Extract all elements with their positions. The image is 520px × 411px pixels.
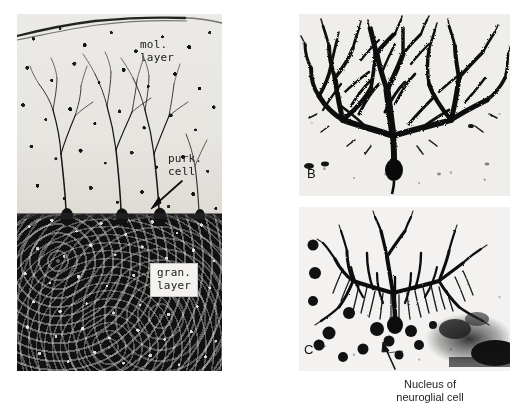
- purkinje-soma-panel-b: [385, 159, 403, 181]
- panel-b-dendritic-arbor: B: [299, 14, 510, 196]
- caption-line-2: neuroglial cell: [355, 391, 505, 404]
- panel-a-neuron-tracing: [17, 14, 222, 371]
- dark-smudge-region: [425, 312, 510, 367]
- purkinje-layer-band: [17, 213, 222, 219]
- purkinje-soma-panel-c: [387, 316, 403, 334]
- purkinje-cell-3: [121, 56, 188, 210]
- pial-surface-line: [17, 18, 222, 40]
- caption-neuroglial-nucleus: Nucleus of neuroglial cell: [355, 378, 505, 404]
- purkinje-cell-1: [30, 58, 93, 210]
- figure-plate: mol. layer purk. cell gran. layer: [0, 0, 520, 411]
- label-gran-layer: gran. layer: [150, 263, 198, 297]
- panel-letter-c: C: [304, 342, 313, 357]
- purkinje-pointer-arrow: [151, 181, 182, 209]
- panel-letter-b: B: [307, 166, 316, 181]
- purkinje-axon-panel-b: [392, 181, 394, 194]
- panel-a-cerebellar-section: mol. layer purk. cell gran. layer: [17, 14, 222, 371]
- panel-c-neuron-with-glia: C: [299, 207, 510, 371]
- panel-c-purkinje-drawing: [299, 207, 510, 371]
- caption-line-1: Nucleus of: [355, 378, 505, 391]
- label-mol-layer: mol. layer: [137, 38, 177, 65]
- panel-b-purkinje-arbor-drawing: [299, 14, 510, 196]
- purkinje-cell-2: [83, 52, 151, 210]
- label-purk-cell: purk. cell: [165, 152, 205, 179]
